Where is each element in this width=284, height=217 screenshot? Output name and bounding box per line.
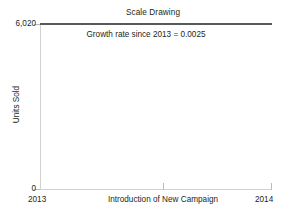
- chart-title: Scale Drawing: [88, 8, 218, 18]
- x-axis-tick-middle: [163, 183, 164, 190]
- series-line-units-sold: [40, 23, 272, 25]
- x-axis-line: [40, 189, 272, 190]
- x-axis-title: Introduction of New Campaign: [68, 195, 258, 205]
- x-axis-tick-right: [271, 183, 272, 190]
- y-axis-title: Units Sold: [12, 65, 21, 145]
- y-axis-tick-label-bottom: 0: [31, 184, 36, 193]
- growth-rate-annotation: Growth rate since 2013 = 0.0025: [46, 30, 246, 40]
- chart-container: Scale Drawing 6,020 0 Units Sold 2013 20…: [0, 0, 284, 217]
- y-axis-tick-label-top: 6,020: [16, 19, 37, 28]
- x-axis-tick-label-left: 2013: [28, 195, 46, 205]
- y-axis-line: [40, 24, 41, 190]
